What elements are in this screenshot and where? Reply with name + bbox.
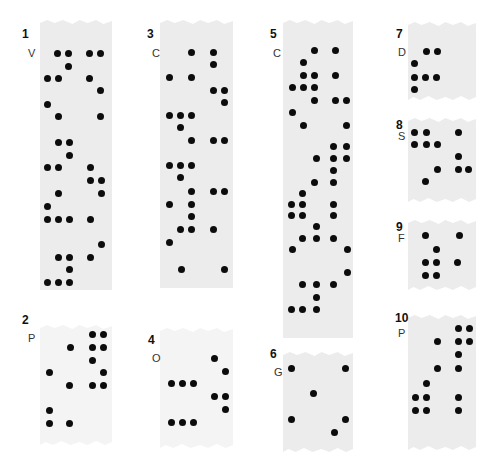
punch-hole-dot: [66, 216, 73, 223]
punch-hole-dot: [343, 143, 350, 150]
punch-hole-dot: [311, 72, 318, 79]
punch-hole-dot: [288, 365, 295, 372]
tape-strip-7: [408, 22, 476, 100]
punch-hole-dot: [211, 355, 218, 362]
punch-hole-dot: [168, 419, 175, 426]
punch-hole-dot: [97, 87, 104, 94]
punch-hole-dot: [330, 281, 337, 288]
punch-hole-dot: [44, 164, 51, 171]
punch-hole-dot: [433, 259, 440, 266]
punch-hole-dot: [66, 420, 73, 427]
punch-hole-dot: [66, 266, 73, 273]
punch-hole-dot: [87, 164, 94, 171]
punch-hole-dot: [55, 254, 62, 261]
tape-strip-5: [283, 20, 353, 338]
punch-hole-dot: [311, 47, 318, 54]
punch-hole-dot: [168, 380, 175, 387]
panel-number: 3: [147, 27, 154, 41]
punch-hole-dot: [222, 406, 229, 413]
punch-hole-dot: [299, 281, 306, 288]
punch-hole-dot: [422, 272, 429, 279]
punch-hole-dot: [342, 416, 349, 423]
punch-hole-dot: [166, 112, 173, 119]
punch-hole-dot: [330, 212, 337, 219]
punch-hole-dot: [89, 344, 96, 351]
punch-hole-dot: [97, 113, 104, 120]
punch-hole-dot: [222, 393, 229, 400]
punch-hole-dot: [188, 201, 195, 208]
punch-hole-dot: [89, 357, 96, 364]
punch-hole-dot: [310, 390, 317, 397]
punch-hole-dot: [66, 152, 73, 159]
punch-hole-dot: [210, 226, 217, 233]
punch-hole-dot: [300, 59, 307, 66]
punch-hole-dot: [313, 223, 320, 230]
punch-hole-dot: [311, 84, 318, 91]
punch-hole-dot: [55, 113, 62, 120]
punch-hole-dot: [455, 351, 462, 358]
punch-hole-dot: [46, 420, 53, 427]
punch-hole-dot: [55, 279, 62, 286]
punch-hole-dot: [177, 162, 184, 169]
punch-hole-dot: [179, 419, 186, 426]
punch-hole-dot: [343, 122, 350, 129]
punch-hole-dot: [289, 246, 296, 253]
punch-hole-dot: [87, 254, 94, 261]
punch-hole-dot: [177, 226, 184, 233]
punch-hole-dot: [313, 294, 320, 301]
punch-hole-dot: [411, 129, 418, 136]
punch-hole-dot: [331, 429, 338, 436]
punch-hole-dot: [86, 50, 93, 57]
punch-hole-dot: [313, 281, 320, 288]
punch-hole-dot: [98, 177, 105, 184]
punch-hole-dot: [299, 306, 306, 313]
panel-number: 10: [395, 311, 408, 325]
punch-hole-dot: [221, 266, 228, 273]
punch-hole-dot: [330, 155, 337, 162]
punch-hole-dot: [221, 99, 228, 106]
punch-hole-dot: [190, 380, 197, 387]
punch-hole-dot: [434, 365, 441, 372]
punch-hole-dot: [411, 141, 418, 148]
panel-number: 4: [148, 333, 155, 347]
punch-hole-dot: [67, 344, 74, 351]
panel-number: 5: [270, 27, 277, 41]
punch-hole-dot: [188, 162, 195, 169]
punch-hole-dot: [422, 232, 429, 239]
punch-hole-dot: [423, 407, 430, 414]
panel-letter: F: [398, 232, 405, 244]
panel-number: 2: [22, 313, 29, 327]
punch-hole-dot: [87, 177, 94, 184]
punch-hole-dot: [466, 338, 473, 345]
punch-hole-dot: [465, 166, 472, 173]
punch-hole-dot: [330, 201, 337, 208]
punch-hole-dot: [455, 129, 462, 136]
punch-hole-dot: [434, 48, 441, 55]
punch-hole-dot: [330, 235, 337, 242]
punch-hole-dot: [343, 155, 350, 162]
punch-hole-dot: [344, 269, 351, 276]
punch-hole-dot: [422, 74, 429, 81]
punch-hole-dot: [455, 338, 462, 345]
punch-hole-dot: [210, 49, 217, 56]
punch-hole-dot: [300, 84, 307, 91]
punch-hole-dot: [288, 201, 295, 208]
punch-hole-dot: [330, 143, 337, 150]
tape-strip-8: [408, 118, 476, 202]
punch-hole-dot: [342, 365, 349, 372]
punch-hole-dot: [89, 382, 96, 389]
punch-hole-dot: [332, 47, 339, 54]
punch-hole-dot: [177, 124, 184, 131]
punch-hole-dot: [288, 306, 295, 313]
punch-hole-dot: [299, 190, 306, 197]
punch-hole-dot: [433, 74, 440, 81]
punch-hole-dot: [299, 201, 306, 208]
punch-hole-dot: [166, 74, 173, 81]
tape-strip-3: [160, 20, 233, 288]
punch-hole-dot: [221, 188, 228, 195]
punch-hole-dot: [330, 179, 337, 186]
punch-hole-dot: [433, 272, 440, 279]
punch-hole-dot: [434, 141, 441, 148]
punch-hole-dot: [423, 394, 430, 401]
punch-hole-dot: [55, 75, 62, 82]
